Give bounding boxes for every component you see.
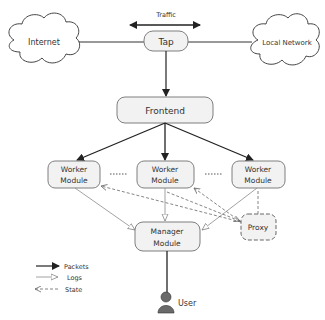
internet-cloud: Internet xyxy=(9,13,80,63)
frontend-node: Frontend xyxy=(117,97,213,123)
state-arrow-to-proxy xyxy=(167,192,240,221)
worker-left-line2: Module xyxy=(60,176,88,185)
worker-left-line1: Worker xyxy=(61,165,88,174)
worker-middle-node: Worker Module xyxy=(137,161,194,188)
traffic-label: Traffic xyxy=(155,11,176,19)
tap-node: Tap xyxy=(144,31,188,51)
state-arrow-left xyxy=(101,186,241,222)
worker-right-node: Worker Module xyxy=(232,161,285,188)
worker-left-node: Worker Module xyxy=(48,161,100,188)
manager-line2: Module xyxy=(153,239,181,248)
legend: Packets Logs State xyxy=(35,263,89,294)
frontend-worker-right-arrow xyxy=(165,123,253,160)
worker-right-line2: Module xyxy=(244,176,272,185)
worker-middle-line1: Worker xyxy=(152,165,179,174)
proxy-label: Proxy xyxy=(248,223,269,232)
legend-packets-label: Packets xyxy=(64,263,89,271)
tap-label: Tap xyxy=(157,37,174,47)
state-arrow-middle xyxy=(194,188,241,222)
proxy-node: Proxy xyxy=(241,214,276,240)
manager-node: Manager Module xyxy=(135,222,200,251)
frontend-label: Frontend xyxy=(145,106,185,116)
user-icon xyxy=(158,292,174,313)
user-label: User xyxy=(178,299,197,308)
internet-label: Internet xyxy=(28,38,60,47)
local-network-label: Local Network xyxy=(262,39,313,47)
legend-logs-label: Logs xyxy=(67,274,83,282)
worker-middle-line2: Module xyxy=(151,176,179,185)
worker-right-line1: Worker xyxy=(245,165,272,174)
frontend-worker-left-arrow xyxy=(77,123,165,160)
local-network-cloud: Local Network xyxy=(251,14,320,65)
architecture-diagram: Internet Local Network Traffic Tap Front… xyxy=(0,0,325,320)
legend-state-label: State xyxy=(65,286,82,294)
log-arrow-left xyxy=(75,188,135,230)
manager-line1: Manager xyxy=(151,227,185,236)
